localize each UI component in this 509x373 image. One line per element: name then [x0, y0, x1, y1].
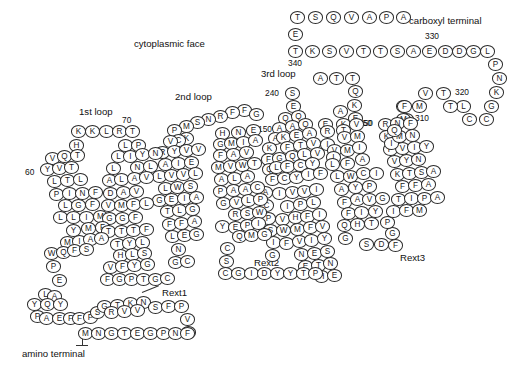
residue-number-240: 240 [265, 88, 279, 98]
residue-circle: V [418, 87, 433, 100]
residue-circle: G [249, 108, 264, 121]
residue-circle: C [160, 272, 175, 285]
residue-circle: V [349, 118, 364, 131]
residue-circle: Q [387, 124, 402, 137]
residue-circle: L [188, 167, 203, 180]
residue-circle: K [71, 125, 86, 138]
residue-circle: T [247, 157, 262, 170]
residue-circle: V [339, 45, 354, 58]
residue-circle: V [129, 185, 144, 198]
residue-circle: F [139, 223, 154, 236]
residue-circle: S [79, 243, 94, 256]
residue-circle: F [88, 186, 103, 199]
residue-circle: A [406, 45, 421, 58]
residue-circle: S [320, 245, 335, 258]
residue-circle: T [364, 217, 379, 230]
residue-circle: S [359, 238, 374, 251]
residue-circle: A [313, 72, 328, 85]
residue-circle: L [480, 45, 495, 58]
residue-circle: P [362, 180, 377, 193]
residue-circle: I [354, 206, 369, 219]
residue-circle: I [369, 167, 384, 180]
residue-circle: L [306, 196, 321, 209]
residue-circle: I [312, 208, 327, 221]
label-carboxyl-terminal: carboxyl terminal [409, 15, 482, 26]
residue-circle: A [240, 170, 255, 183]
residue-circle: S [322, 45, 337, 58]
residue-circle: I [309, 183, 324, 196]
residue-circle: A [430, 191, 445, 204]
residue-circle: F [388, 239, 403, 252]
residue-circle: P [380, 216, 395, 229]
residue-circle: G [375, 192, 390, 205]
residue-circle: T [356, 45, 371, 58]
residue-circle: T [290, 11, 305, 24]
label-cytoplasmic-face: cytoplasmic face [134, 38, 205, 49]
residue-circle: R [320, 125, 335, 138]
residue-circle: E [288, 28, 303, 41]
residue-circle: P [379, 11, 394, 24]
residue-circle: T [125, 125, 140, 138]
residue-circle: T [288, 45, 303, 58]
residue-number-320: 320 [455, 87, 469, 97]
label-first-loop: 1st loop [79, 106, 113, 117]
residue-circle: A [94, 232, 109, 245]
residue-circle: N [492, 72, 507, 85]
residue-circle: N [171, 243, 186, 256]
residue-circle: G [140, 258, 155, 271]
residue-circle: N [405, 129, 420, 142]
residue-circle: A [426, 165, 441, 178]
residue-circle: V [344, 11, 359, 24]
residue-circle: G [189, 228, 204, 241]
residue-number-340: 340 [288, 58, 302, 68]
residue-number-70: 70 [122, 115, 131, 125]
residue-circle: P [488, 58, 503, 71]
residue-circle: Q [348, 85, 363, 98]
residue-circle: E [327, 269, 342, 282]
residue-number-60: 60 [25, 167, 34, 177]
residue-circle: G [185, 203, 200, 216]
residue-circle: S [308, 11, 323, 24]
residue-circle: D [452, 45, 467, 58]
residue-circle: G [265, 249, 280, 262]
residue-circle: F [85, 198, 100, 211]
residue-circle: L [325, 158, 340, 171]
residue-circle: F [340, 157, 355, 170]
residue-circle: T [329, 72, 344, 85]
residue-circle: T [64, 161, 79, 174]
residue-circle: D [374, 238, 389, 251]
residue-circle: K [489, 86, 504, 99]
residue-circle: N [411, 153, 426, 166]
residue-circle: W [276, 224, 291, 237]
residue-circle: A [333, 105, 348, 118]
residue-circle: A [187, 215, 202, 228]
residue-circle: A [396, 11, 411, 24]
residue-circle: L [139, 197, 154, 210]
residue-circle: V [130, 304, 145, 317]
residue-circle: E [422, 45, 437, 58]
residue-circle: V [315, 220, 330, 233]
residue-circle: F [180, 327, 195, 340]
label-amino-terminal: amino terminal [22, 348, 85, 359]
label-third-loop: 3rd loop [261, 68, 296, 79]
residue-circle: S [285, 87, 300, 100]
residue-circle: K [85, 125, 100, 138]
residue-circle: F [313, 167, 328, 180]
residue-circle: V [139, 171, 154, 184]
residue-circle: M [412, 100, 427, 113]
residue-circle: A [421, 178, 436, 191]
residue-circle: F [403, 117, 418, 130]
residue-circle: T [443, 100, 458, 113]
residue-circle: C [479, 113, 494, 126]
residue-circle: A [334, 183, 349, 196]
residue-circle: V [180, 313, 195, 326]
residue-circle: N [323, 257, 338, 270]
residue-circle: S [219, 255, 234, 268]
residue-circle: C [180, 255, 195, 268]
residue-circle: S [390, 45, 405, 58]
residue-circle: G [338, 232, 353, 245]
residue-circle: M [412, 204, 427, 217]
label-rext3: Rext3 [400, 252, 425, 263]
residue-circle: T [70, 149, 85, 162]
residue-circle: G [71, 199, 86, 212]
